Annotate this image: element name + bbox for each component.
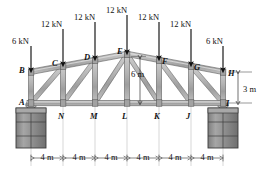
member-A-B (28, 71, 33, 104)
load-label-D: 12 kN (74, 13, 95, 22)
joint-label-E: E (117, 47, 123, 56)
member-J-G (188, 65, 193, 104)
dimension-label-panel-2: 4 m (73, 153, 86, 162)
joint-label-D: D (84, 53, 90, 62)
dimension-label-height-end: 3 m (243, 85, 256, 94)
dimension-label-panel-6: 4 m (201, 153, 214, 162)
load-label-F: 12 kN (138, 13, 159, 22)
load-label-G: 12 kN (170, 20, 191, 29)
support-right (208, 101, 238, 148)
member-I-H (220, 71, 225, 104)
dimension-chain-panels (31, 155, 223, 162)
support-left (16, 101, 46, 148)
member-L-E (124, 53, 129, 104)
dimension-label-panel-4: 4 m (137, 153, 150, 162)
dimension-label-height-center: 6 m (131, 70, 144, 79)
joint-label-L: L (122, 112, 127, 121)
member-M-D (92, 59, 97, 104)
member-K-F (156, 59, 161, 104)
dimension-label-panel-1: 4 m (41, 153, 54, 162)
joint-label-H: H (228, 69, 235, 78)
joint-label-B: B (19, 66, 25, 75)
joint-label-K: K (154, 112, 160, 121)
joint-label-N: N (58, 112, 64, 121)
joint-label-C: C (52, 59, 58, 68)
joint-label-G: G (194, 63, 200, 72)
joint-label-F: F (162, 57, 168, 66)
dimension-label-panel-3: 4 m (105, 153, 118, 162)
joint-label-J: J (186, 112, 190, 121)
load-label-B: 6 kN (12, 37, 29, 46)
joint-label-A: A (19, 98, 25, 107)
member-N-C (60, 65, 65, 104)
load-label-E: 12 kN (106, 6, 127, 15)
load-label-C: 12 kN (41, 20, 62, 29)
load-label-H: 6 kN (206, 37, 223, 46)
dimension-label-panel-5: 4 m (169, 153, 182, 162)
joint-label-I: I (226, 99, 229, 108)
joint-label-M: M (90, 112, 98, 121)
